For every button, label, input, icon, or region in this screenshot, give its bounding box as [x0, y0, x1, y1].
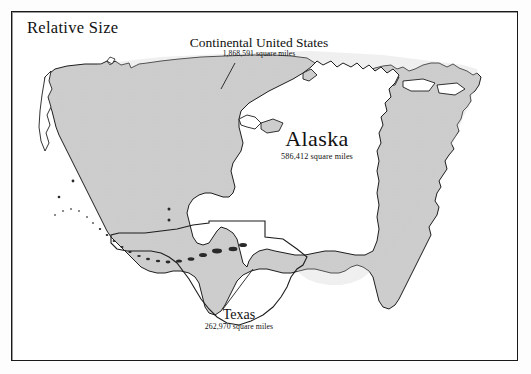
- texas-area: 262,970 square miles: [172, 323, 306, 332]
- label-continental-united-states: Continental United States 1,868,591 squa…: [176, 36, 342, 59]
- page-title: Relative Size: [27, 18, 118, 38]
- alaska-name: Alaska: [255, 128, 379, 151]
- alaska-area: 586,412 square miles: [255, 152, 379, 161]
- texas-name: Texas: [172, 308, 306, 323]
- label-texas: Texas 262,970 square miles: [172, 308, 306, 332]
- continental-name: Continental United States: [176, 36, 342, 50]
- label-alaska: Alaska 586,412 square miles: [255, 128, 379, 161]
- figure-canvas: Relative Size Continental United States …: [0, 0, 531, 374]
- continental-area: 1,868,591 square miles: [176, 50, 342, 59]
